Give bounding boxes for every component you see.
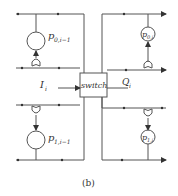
processor-p1-i: p 1,i	[141, 118, 155, 160]
merge-gate-icon	[144, 61, 152, 68]
merge-gate-icon	[144, 109, 152, 116]
switch-diagram: p 0,i−1 p 0,i switch I i Q i	[0, 0, 178, 196]
merge-gate-icon	[32, 106, 40, 113]
input-sub: i	[45, 85, 47, 92]
output-sub: i	[129, 82, 131, 89]
p1-i-sub: 1,i	[147, 137, 154, 143]
figure-caption: (b)	[82, 178, 95, 188]
switch-label: switch	[81, 81, 107, 90]
p0-i-sub: 0,i	[147, 34, 154, 40]
processor-p0-i: p 0,i	[141, 14, 155, 62]
merge-gate-icon	[32, 59, 40, 66]
processor-p0-im1: p 0,i−1	[27, 14, 71, 58]
p0-im1-sub: 0,i−1	[54, 36, 71, 43]
p1-im1-sub: 1,i−1	[54, 138, 71, 145]
processor-p1-im1: p 1,i−1	[27, 115, 71, 160]
